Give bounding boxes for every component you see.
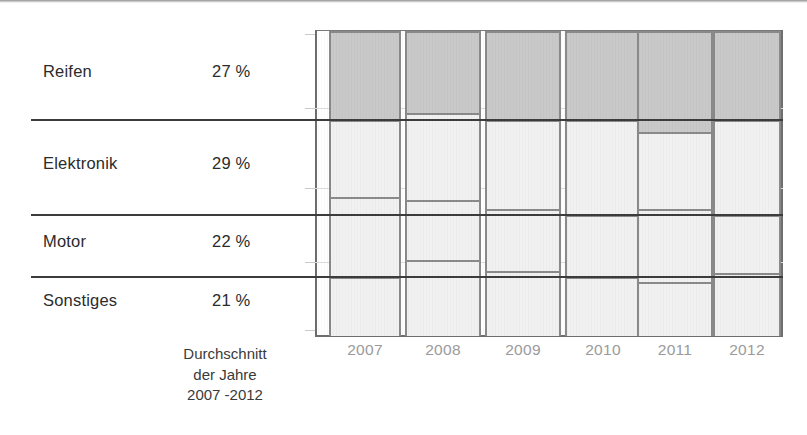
stacked-bar-chart-plot (315, 30, 783, 337)
average-period-note: Durchschnitt der Jahre 2007 -2012 (150, 344, 300, 406)
bar-segment-sonstiges[interactable] (637, 282, 713, 336)
average-period-note-line3: 2007 -2012 (150, 385, 300, 406)
x-axis-label-2009: 2009 (485, 341, 561, 359)
bar-segment-reifen[interactable] (485, 31, 561, 120)
x-axis-labels: 2007 2008 2009 2010 2011 2012 (315, 341, 783, 365)
legend-label-elektronik: Elektronik (43, 154, 117, 173)
legend-label-sonstiges: Sonstiges (43, 291, 117, 310)
bar-column-2012[interactable] (713, 31, 781, 336)
bar-segment-motor[interactable] (329, 197, 401, 277)
bar-segment-motor[interactable] (713, 215, 781, 273)
legend-percent-motor: 22 % (212, 232, 250, 251)
bar-segment-motor[interactable] (637, 209, 713, 282)
bar-segment-elektronik[interactable] (565, 120, 641, 215)
bar-segment-motor[interactable] (405, 200, 481, 260)
bar-column-2007[interactable] (329, 31, 401, 336)
x-axis-label-2008: 2008 (405, 341, 481, 359)
bar-segment-sonstiges[interactable] (485, 271, 561, 336)
axis-tick (305, 262, 315, 263)
bar-column-2011[interactable] (637, 31, 713, 336)
legend-percent-elektronik: 29 % (212, 154, 250, 173)
bar-column-2009[interactable] (485, 31, 561, 336)
bar-segment-motor[interactable] (485, 209, 561, 271)
axis-tick (305, 108, 315, 109)
chart-page: Reifen 27 % Elektronik 29 % Motor 22 % S… (0, 0, 807, 435)
x-axis-label-2011: 2011 (637, 341, 713, 359)
bar-column-2010[interactable] (565, 31, 641, 336)
legend-label-reifen: Reifen (43, 62, 92, 81)
bar-segment-reifen[interactable] (713, 31, 781, 120)
reference-rule-reifen-elektronik (31, 119, 783, 121)
bar-segment-reifen[interactable] (637, 31, 713, 132)
legend-label-motor: Motor (43, 232, 86, 251)
axis-tick (305, 188, 315, 189)
plot-border-right (781, 30, 783, 337)
bar-segment-reifen[interactable] (405, 31, 481, 113)
x-axis-label-2010: 2010 (565, 341, 641, 359)
bar-segment-elektronik[interactable] (405, 113, 481, 200)
average-period-note-line2: der Jahre (150, 365, 300, 386)
legend-percent-sonstiges: 21 % (212, 291, 250, 310)
bar-segment-elektronik[interactable] (329, 120, 401, 197)
x-axis-label-2007: 2007 (329, 341, 401, 359)
bar-segment-sonstiges[interactable] (565, 277, 641, 336)
bar-column-2008[interactable] (405, 31, 481, 336)
plot-border-left (315, 30, 317, 337)
bar-segment-elektronik[interactable] (637, 132, 713, 209)
x-axis-label-2012: 2012 (713, 341, 781, 359)
bar-segment-reifen[interactable] (329, 31, 401, 120)
bar-segment-reifen[interactable] (565, 31, 641, 120)
reference-rule-elektronik-motor (31, 214, 783, 216)
average-period-note-line1: Durchschnitt (150, 344, 300, 365)
bar-segment-elektronik[interactable] (713, 120, 781, 215)
bar-segment-sonstiges[interactable] (713, 273, 781, 336)
bar-segment-elektronik[interactable] (485, 120, 561, 209)
reference-rule-motor-sonstiges (31, 276, 783, 278)
bar-segment-motor[interactable] (565, 215, 641, 277)
bar-segment-sonstiges[interactable] (405, 260, 481, 336)
legend-percent-reifen: 27 % (212, 62, 250, 81)
bar-segment-sonstiges[interactable] (329, 277, 401, 336)
axis-tick (305, 330, 315, 331)
axis-tick (305, 34, 315, 35)
